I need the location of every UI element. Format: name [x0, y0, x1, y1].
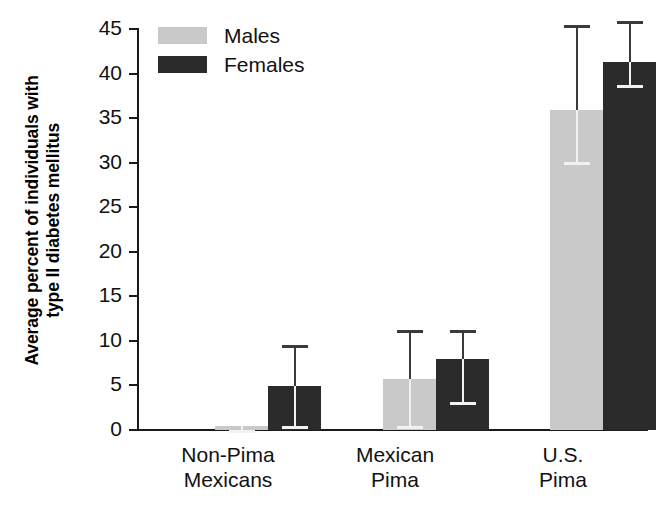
y-tick-label-35: 35 [78, 106, 122, 127]
plot-area [137, 28, 648, 430]
y-axis-title-line-1: Average percent of individuals with [22, 75, 43, 366]
error-bar-lower-females-2 [462, 359, 464, 403]
error-bar-upper-females-1 [294, 345, 296, 386]
x-tick-label-non-pima-mexicans: Non-Pima Mexicans [148, 443, 308, 492]
x-label-line-2: Mexicans [148, 468, 308, 493]
error-cap-upper-females-2 [450, 330, 476, 333]
legend-label-females: Females [224, 54, 305, 75]
y-tick-label-10: 10 [78, 329, 122, 350]
error-bar-lower-females-1 [294, 386, 296, 425]
error-bar-lower-males-2 [409, 379, 411, 426]
y-axis-title-line-2: type II diabetes mellitus [43, 75, 64, 366]
y-tick-label-40: 40 [78, 62, 122, 83]
legend-item-females: Females [158, 51, 305, 77]
legend-item-males: Males [158, 22, 305, 48]
x-label-line-1: Mexican [315, 443, 475, 468]
error-cap-lower-females-2 [450, 402, 476, 405]
x-tick-label-us-pima: U.S. Pima [483, 443, 643, 492]
legend-label-males: Males [224, 25, 280, 46]
error-bar-lower-males-3 [576, 110, 578, 162]
error-cap-lower-females-1 [282, 426, 308, 429]
y-tick-label-30: 30 [78, 151, 122, 172]
x-tick-label-mexican-pima: Mexican Pima [315, 443, 475, 492]
error-cap-upper-females-1 [282, 345, 308, 348]
x-label-line-1: U.S. [483, 443, 643, 468]
error-cap-upper-males-2 [397, 330, 423, 333]
y-tick-label-5: 5 [78, 373, 122, 394]
legend-swatch-females-icon [158, 56, 207, 73]
legend-swatch-males-icon [158, 27, 207, 44]
error-cap-lower-males-2 [397, 426, 423, 429]
x-label-line-1: Non-Pima [148, 443, 308, 468]
y-axis-title: Average percent of individuals with type… [0, 0, 86, 440]
bar-females-3 [603, 62, 656, 430]
error-cap-upper-males-3 [564, 25, 590, 28]
legend: Males Females [158, 22, 305, 80]
error-cap-lower-males-1 [229, 430, 255, 433]
error-cap-lower-males-3 [564, 162, 590, 165]
y-tick-label-25: 25 [78, 195, 122, 216]
error-bar-upper-females-2 [462, 330, 464, 359]
error-bar-upper-females-3 [629, 21, 631, 62]
x-label-line-2: Pima [315, 468, 475, 493]
error-cap-upper-females-3 [617, 21, 643, 24]
error-cap-lower-females-3 [617, 85, 643, 88]
y-tick-label-45: 45 [78, 17, 122, 38]
error-bar-upper-males-3 [576, 25, 578, 110]
error-bar-lower-females-3 [629, 62, 631, 85]
x-label-line-2: Pima [483, 468, 643, 493]
y-tick-label-20: 20 [78, 240, 122, 261]
error-bar-upper-males-2 [409, 330, 411, 379]
y-tick-label-0: 0 [78, 418, 122, 439]
chart-figure: Average percent of individuals with type… [0, 0, 668, 512]
y-tick-label-15: 15 [78, 284, 122, 305]
